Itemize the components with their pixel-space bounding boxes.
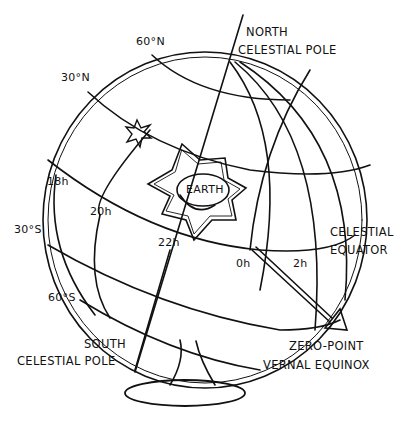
equinox-label-1: ZERO-POINT	[289, 340, 364, 352]
dec-label-30n: 30°N	[61, 72, 90, 84]
ra-label-22h: 22h	[158, 237, 180, 249]
dec-label-60n: 60°N	[136, 36, 165, 48]
equinox-label-2: VERNAL EQUINOX	[263, 359, 370, 371]
dec-60n	[152, 55, 290, 100]
north-pole-label-1: NORTH	[246, 26, 288, 38]
equinox-arrow	[252, 250, 330, 322]
hour-20h	[94, 215, 110, 318]
earth-label: EARTH	[186, 184, 224, 196]
dec-label-30s: 30°S	[14, 224, 42, 236]
equator-label-1: CELESTIAL	[330, 226, 394, 238]
stand-base	[125, 380, 245, 406]
south-pole-label-2: CELESTIAL POLE	[17, 355, 115, 367]
equator-label-2: EQUATOR	[330, 244, 388, 256]
ra-label-2h: 2h	[293, 258, 308, 270]
ra-label-0h: 0h	[236, 258, 251, 270]
celestial-sphere-diagram: NORTH CELESTIAL POLE 60°N 30°N 30°S 60°S…	[0, 0, 418, 423]
ra-label-20h: 20h	[90, 206, 112, 218]
dec-label-60s: 60°S	[48, 292, 76, 304]
south-pole-label-1: SOUTH	[84, 338, 126, 350]
ra-label-18h: 18h	[47, 176, 69, 188]
north-pole-label-2: CELESTIAL POLE	[238, 44, 336, 56]
